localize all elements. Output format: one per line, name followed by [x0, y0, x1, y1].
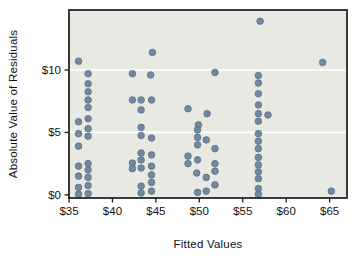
y-axis-title: Absolute Value of Residuals [7, 4, 19, 204]
y-tick-label: $10 [42, 64, 61, 76]
data-point [185, 160, 192, 167]
scatter-plot: $35$40$45$50$55$60$65$0$5$10 [0, 0, 359, 263]
data-point [85, 160, 92, 167]
data-point [85, 104, 92, 111]
data-point [255, 138, 262, 145]
data-point [204, 110, 211, 117]
data-point [194, 134, 201, 141]
data-point [138, 183, 145, 190]
data-point [255, 110, 262, 117]
data-point [212, 145, 219, 152]
data-point [212, 182, 219, 189]
data-point [75, 184, 82, 191]
data-point [185, 105, 192, 112]
plot-background [69, 10, 347, 198]
data-point [85, 80, 92, 87]
data-point [212, 168, 219, 175]
data-point [75, 130, 82, 137]
data-point [75, 58, 82, 65]
data-point [85, 97, 92, 104]
data-point [138, 124, 145, 131]
data-point [194, 189, 201, 196]
data-point [255, 191, 262, 198]
x-tick-label: $65 [320, 205, 339, 217]
x-tick-label: $40 [103, 205, 122, 217]
data-point [75, 163, 82, 170]
data-point [138, 150, 145, 157]
x-tick-label: $35 [59, 205, 78, 217]
data-point [148, 152, 155, 159]
data-point [138, 132, 145, 139]
y-tick-label: $0 [48, 189, 61, 201]
data-point [255, 154, 262, 161]
y-tick-label: $5 [48, 126, 61, 138]
data-point [129, 70, 136, 77]
data-point [328, 188, 335, 195]
data-point [149, 49, 156, 56]
data-point [194, 142, 201, 149]
data-point [75, 191, 82, 198]
x-tick-label: $45 [146, 205, 165, 217]
data-point [255, 162, 262, 169]
data-point [212, 69, 219, 76]
data-point [255, 118, 262, 125]
data-point [255, 130, 262, 137]
data-point [129, 97, 136, 104]
data-point [255, 90, 262, 97]
data-point [148, 179, 155, 186]
data-point [75, 119, 82, 126]
data-point [138, 165, 145, 172]
data-point [319, 59, 326, 66]
data-point [194, 127, 201, 134]
data-point [265, 112, 272, 119]
data-point [138, 107, 145, 114]
residual-scatter-figure: $35$40$45$50$55$60$65$0$5$10 Absolute Va… [0, 0, 359, 263]
data-point [255, 175, 262, 182]
data-point [257, 18, 264, 25]
x-axis-title: Fitted Values [69, 238, 347, 250]
data-point [85, 167, 92, 174]
data-point [148, 188, 155, 195]
data-point [85, 70, 92, 77]
data-point [75, 173, 82, 180]
data-point [212, 160, 219, 167]
data-point [203, 137, 210, 144]
data-point [255, 72, 262, 79]
data-point [255, 168, 262, 175]
data-point [85, 89, 92, 96]
data-point [85, 182, 92, 189]
data-point [194, 157, 201, 164]
data-point [148, 163, 155, 170]
data-point [255, 145, 262, 152]
x-tick-label: $55 [233, 205, 252, 217]
data-point [203, 174, 210, 181]
data-point [85, 115, 92, 122]
data-point [85, 133, 92, 140]
data-point [148, 97, 155, 104]
data-point [138, 157, 145, 164]
data-point [138, 190, 145, 197]
x-tick-label: $50 [190, 205, 209, 217]
data-point [203, 188, 210, 195]
data-point [193, 170, 200, 177]
data-point [85, 190, 92, 197]
data-point [75, 143, 82, 150]
data-point [148, 135, 155, 142]
data-point [138, 97, 145, 104]
data-point [85, 174, 92, 181]
data-point [147, 72, 154, 79]
data-point [85, 125, 92, 132]
data-point [255, 80, 262, 87]
data-point [255, 102, 262, 109]
data-point [148, 172, 155, 179]
x-tick-label: $60 [277, 205, 296, 217]
data-point [129, 165, 136, 172]
data-point [185, 153, 192, 160]
